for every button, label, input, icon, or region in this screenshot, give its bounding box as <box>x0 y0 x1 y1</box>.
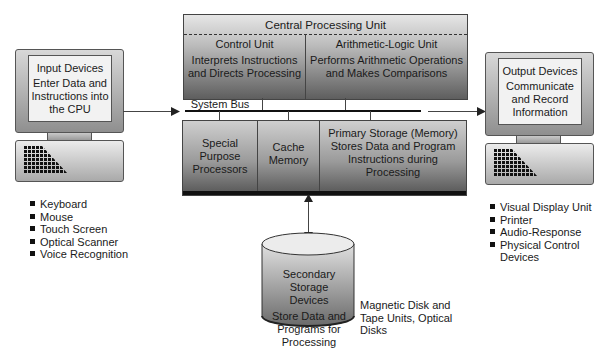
bus-connector <box>288 111 289 120</box>
list-item: Physical Control Devices <box>490 239 600 264</box>
input-device-list: Keyboard Mouse Touch Screen Optical Scan… <box>30 198 128 261</box>
list-item: Voice Recognition <box>30 248 128 261</box>
output-title: Output Devices <box>499 65 581 78</box>
secondary-storage: Secondary Storage Devices Store Data and… <box>262 268 356 349</box>
special-purpose-processors: Special Purpose Processors <box>183 121 257 191</box>
control-unit-desc: Interprets Instructions and Directs Proc… <box>184 54 305 80</box>
input-monitor: Input Devices Enter Data and Instruction… <box>15 49 124 133</box>
arrowhead-up-icon <box>304 194 313 202</box>
list-item: Touch Screen <box>30 223 128 236</box>
cpu-lower-block: Special Purpose Processors Cache Memory … <box>182 120 467 196</box>
output-desc: Communicate and Record Information <box>499 80 581 119</box>
special-purpose-label: Special Purpose Processors <box>190 137 250 176</box>
primary-storage-label: Primary Storage (Memory) Stores Data and… <box>320 127 466 179</box>
alu: Arithmetic-Logic Unit Performs Arithmeti… <box>306 35 467 80</box>
bus-connector <box>370 111 371 120</box>
cache-memory-label: Cache Memory <box>264 141 314 167</box>
list-item: Printer <box>490 214 600 227</box>
secondary-title: Secondary Storage Devices <box>262 268 356 307</box>
cpu-upper-block: Central Processing Unit Control Unit Int… <box>183 14 468 100</box>
keyboard-keys-icon <box>24 146 84 174</box>
secondary-desc: Store Data and Programs for Processing <box>262 310 356 349</box>
primary-storage: Primary Storage (Memory) Stores Data and… <box>320 127 466 179</box>
input-screen: Input Devices Enter Data and Instruction… <box>28 55 112 122</box>
alu-desc: Performs Arithmetic Operations and Makes… <box>306 54 467 80</box>
cache-memory: Cache Memory <box>258 121 319 187</box>
input-title: Input Devices <box>29 62 111 75</box>
system-bus-line <box>185 110 421 112</box>
list-item: Visual Display Unit <box>490 201 600 214</box>
dark-band <box>183 191 466 195</box>
output-screen: Output Devices Communicate and Record In… <box>498 58 582 125</box>
cpu-to-output-arrow <box>428 111 479 112</box>
list-item: Audio-Response <box>490 226 600 239</box>
output-monitor: Output Devices Communicate and Record In… <box>485 52 594 136</box>
list-item: Keyboard <box>30 198 128 211</box>
output-device-list: Visual Display Unit Printer Audio-Respon… <box>490 201 600 264</box>
bus-connector <box>219 111 220 120</box>
input-to-cpu-arrow <box>123 111 175 112</box>
alu-title: Arithmetic-Logic Unit <box>306 38 467 51</box>
secondary-examples: Magnetic Disk and Tape Units, Optical Di… <box>360 299 460 337</box>
keyboard-keys-icon <box>494 149 554 177</box>
control-unit-title: Control Unit <box>184 38 305 51</box>
control-unit: Control Unit Interprets Instructions and… <box>184 35 305 80</box>
input-keyboard-icon <box>15 140 124 182</box>
arrowhead-icon <box>171 107 181 116</box>
cpu-title: Central Processing Unit <box>184 19 467 32</box>
list-item: Mouse <box>30 211 128 224</box>
input-desc: Enter Data and Instructions into the CPU <box>29 77 111 116</box>
list-item: Optical Scanner <box>30 236 128 249</box>
output-keyboard-icon <box>485 143 594 185</box>
